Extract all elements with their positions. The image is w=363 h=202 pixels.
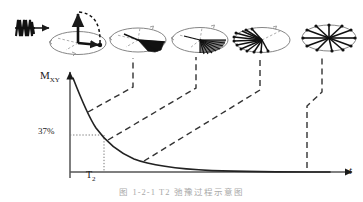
stage-4-broad-fan	[233, 26, 291, 54]
y-axis-label-sub: XY	[50, 76, 60, 84]
figure-caption: 图 1-2-1 T2 弛豫过程示意图	[0, 188, 363, 197]
rf-pulse-waveform	[15, 20, 35, 36]
leader-line-stage-4	[307, 58, 322, 168]
leader-line-stage-2	[108, 57, 196, 140]
x-axis-label: t	[349, 166, 352, 176]
y-axis-label: MXY	[40, 70, 60, 84]
stage-1-flip-to-transverse	[49, 12, 106, 56]
t2-tick-label: T2	[86, 170, 96, 183]
t2-decay-curve	[73, 78, 330, 172]
t2-relaxation-figure	[0, 0, 363, 202]
stage-5-full-dephase	[301, 23, 356, 52]
stage-3-wide-fan	[171, 25, 228, 54]
stage-2-narrow-fan	[109, 26, 166, 52]
percent-tick-label: 37%	[38, 127, 55, 136]
leader-line-stage-1	[88, 58, 133, 112]
chart-axes	[70, 72, 352, 178]
t2-tick-label-sub: 2	[92, 175, 96, 183]
y-axis-label-main: M	[40, 69, 50, 81]
figure-canvas: MXY 37% T2 t 图 1-2-1 T2 弛豫过程示意图	[0, 0, 363, 202]
